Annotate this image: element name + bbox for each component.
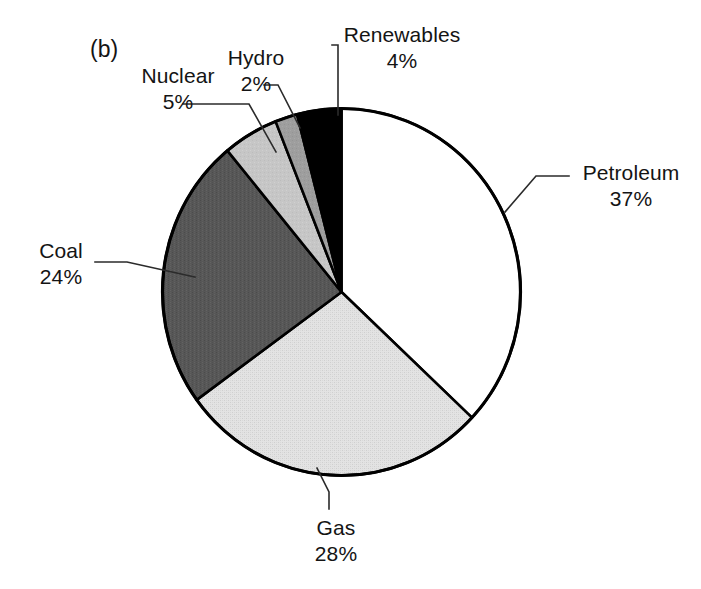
- slice-label-coal: Coal 24%: [18, 238, 104, 290]
- slice-label-nuclear-name: Nuclear: [126, 63, 230, 89]
- slice-label-petroleum: Petroleum 37%: [573, 160, 689, 212]
- slice-label-petroleum-name: Petroleum: [573, 160, 689, 186]
- slice-label-coal-name: Coal: [18, 238, 104, 264]
- pie-chart-canvas: [0, 0, 701, 589]
- slice-label-hydro-value: 2%: [218, 71, 294, 97]
- panel-tag: (b): [90, 36, 118, 63]
- pie-chart-figure: (b) Nuclear 5% Hydro 2% Renewables 4% Pe…: [0, 0, 701, 589]
- leader-line-petroleum: [505, 176, 569, 212]
- slice-label-gas: Gas 28%: [296, 515, 376, 567]
- slice-label-coal-value: 24%: [18, 264, 104, 290]
- slice-label-hydro: Hydro 2%: [218, 45, 294, 97]
- slice-label-renewables-value: 4%: [332, 48, 472, 74]
- slice-label-renewables: Renewables 4%: [332, 22, 472, 74]
- slice-label-nuclear-value: 5%: [126, 89, 230, 115]
- slice-label-hydro-name: Hydro: [218, 45, 294, 71]
- slice-label-petroleum-value: 37%: [573, 186, 689, 212]
- slice-label-gas-value: 28%: [296, 541, 376, 567]
- slice-label-nuclear: Nuclear 5%: [126, 63, 230, 115]
- pie-slices: [163, 109, 521, 476]
- slice-label-renewables-name: Renewables: [332, 22, 472, 48]
- slice-label-gas-name: Gas: [296, 515, 376, 541]
